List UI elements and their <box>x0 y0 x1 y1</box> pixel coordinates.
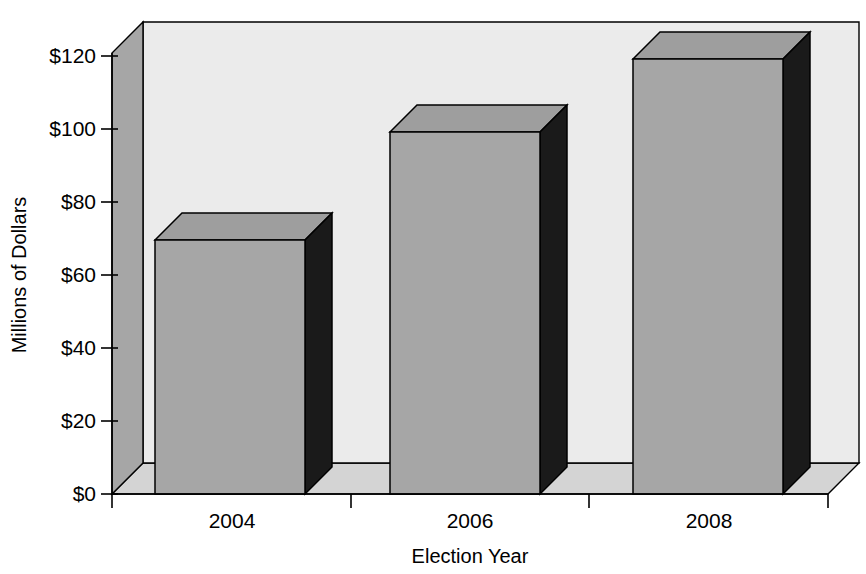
y-tick-40: $40 <box>61 336 118 359</box>
bar-2004[interactable] <box>155 213 332 494</box>
x-axis: 2004 2006 2008 <box>112 494 828 532</box>
y-tick-80: $80 <box>61 190 118 213</box>
y-tick-120: $120 <box>49 44 118 67</box>
bar-2006-front <box>390 132 540 494</box>
bar-2008-side <box>783 32 810 494</box>
bar-2006[interactable] <box>390 105 567 494</box>
x-tick-label-2004: 2004 <box>209 509 256 532</box>
y-tick-label-100: $100 <box>49 117 96 140</box>
y-tick-0: $0 <box>73 482 118 505</box>
y-tick-label-40: $40 <box>61 336 96 359</box>
y-tick-20: $20 <box>61 409 118 432</box>
y-tick-label-80: $80 <box>61 190 96 213</box>
bar-2004-top <box>155 213 332 240</box>
bar-chart: $0 $20 $40 $60 $80 $100 <box>0 0 866 574</box>
bar-2004-front <box>155 240 305 494</box>
x-axis-title: Election Year <box>412 545 529 567</box>
chart-canvas: $0 $20 $40 $60 $80 $100 <box>0 0 866 574</box>
bar-2006-top <box>390 105 567 132</box>
left-wall-plane <box>112 22 143 494</box>
y-axis-title: Millions of Dollars <box>8 197 30 354</box>
x-tick-label-2006: 2006 <box>447 509 494 532</box>
bar-2006-side <box>540 105 567 494</box>
bar-2004-side <box>305 213 332 494</box>
y-tick-label-20: $20 <box>61 409 96 432</box>
bar-2008-front <box>633 59 783 494</box>
bar-2008-top <box>633 32 810 59</box>
y-tick-60: $60 <box>61 263 118 286</box>
y-tick-label-120: $120 <box>49 44 96 67</box>
y-axis: $0 $20 $40 $60 $80 $100 <box>49 44 118 505</box>
y-tick-label-60: $60 <box>61 263 96 286</box>
x-tick-label-2008: 2008 <box>686 509 733 532</box>
y-tick-label-0: $0 <box>73 482 96 505</box>
y-tick-100: $100 <box>49 117 118 140</box>
bar-2008[interactable] <box>633 32 810 494</box>
